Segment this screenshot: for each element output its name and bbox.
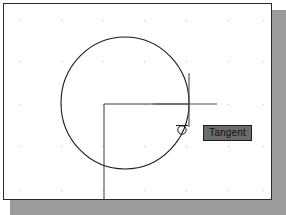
- drawing-vector-layer: [4, 4, 271, 199]
- grid-dots: [19, 20, 264, 191]
- circle-entity[interactable]: [61, 37, 189, 169]
- snap-tooltip: Tangent: [203, 125, 252, 141]
- drawing-window[interactable]: Tangent: [3, 3, 272, 200]
- drawing-canvas[interactable]: Tangent: [4, 4, 271, 199]
- app-root: Tangent: [0, 0, 286, 215]
